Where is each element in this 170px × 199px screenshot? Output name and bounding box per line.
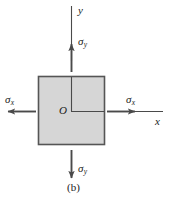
origin-label: O <box>59 105 67 116</box>
sigma-x-right-symbol: σ <box>126 93 131 105</box>
sigma-x-left-symbol: σ <box>5 93 10 105</box>
sigma-x-right-label: σx <box>126 94 135 107</box>
sigma-y-top-subscript: y <box>84 40 87 49</box>
x-axis-label: x <box>155 116 160 127</box>
sigma-x-left-label: σx <box>5 94 14 107</box>
sigma-x-right-subscript: x <box>132 98 135 107</box>
sigma-y-bottom-label: σy <box>78 163 87 176</box>
y-axis-label: y <box>78 5 83 16</box>
sigma-y-bottom-symbol: σ <box>78 162 83 174</box>
sigma-y-bottom-subscript: y <box>84 167 87 176</box>
sigma-x-left-subscript: x <box>11 98 14 107</box>
figure-caption: (b) <box>67 182 80 193</box>
stress-element-figure: y x O σy σy σx σx (b) <box>0 0 170 199</box>
sigma-y-top-symbol: σ <box>78 35 83 47</box>
sigma-y-top-label: σy <box>78 36 87 49</box>
